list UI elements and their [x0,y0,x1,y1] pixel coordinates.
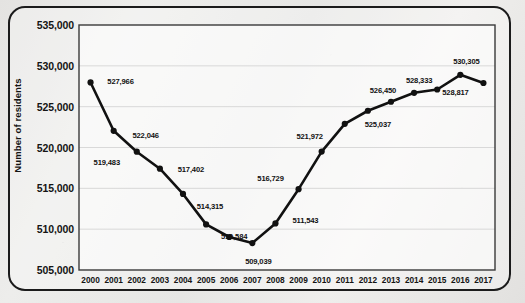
x-tick-2009: 2009 [289,275,307,285]
data-point-marker[interactable] [203,221,209,227]
x-tick-2016: 2016 [451,275,469,285]
x-tick-2006: 2006 [220,275,238,285]
x-tick-2001: 2001 [104,275,122,285]
data-label-2008: 511,543 [292,216,318,225]
x-tick-2011: 2011 [336,275,354,285]
data-label-2017: 528,817 [442,87,468,96]
data-label-2003: 517,402 [178,164,204,173]
data-point-marker[interactable] [180,191,186,197]
data-label-2001: 522,046 [132,130,158,139]
x-tick-2002: 2002 [128,275,146,285]
x-tick-2008: 2008 [266,275,284,285]
x-tick-2000: 2000 [81,275,99,285]
data-point-marker[interactable] [388,99,394,105]
x-tick-2007: 2007 [243,275,261,285]
data-point-marker[interactable] [480,80,486,86]
data-label-2009: 516,729 [257,174,283,183]
x-tick-2010: 2010 [312,275,330,285]
x-tick-2017: 2017 [474,275,492,285]
data-point-marker[interactable] [249,240,255,246]
data-point-marker[interactable] [457,72,463,78]
x-tick-2005: 2005 [197,275,215,285]
data-point-marker[interactable] [111,128,117,134]
data-point-marker[interactable] [319,148,325,154]
data-point-marker[interactable] [157,166,163,172]
x-tick-2003: 2003 [151,275,169,285]
data-point-marker[interactable] [272,220,278,226]
data-point-marker[interactable] [134,149,140,155]
x-tick-2013: 2013 [382,275,400,285]
data-label-2000: 527,966 [107,77,133,86]
data-point-marker[interactable] [434,86,440,92]
data-point-marker[interactable] [411,90,417,96]
data-label-2016: 530,305 [453,56,479,65]
data-label-2010: 521,972 [296,131,322,140]
data-point-marker[interactable] [342,121,348,127]
data-point-marker[interactable] [295,186,301,192]
data-point-marker[interactable] [365,108,371,114]
chart-page: 535,000 530,000 525,000 520,000 515,000 … [0,0,525,303]
data-label-2012: 525,037 [365,119,391,128]
data-label-2013: 526,450 [370,85,396,94]
data-label-2002: 519,483 [94,157,120,166]
x-tick-2014: 2014 [405,275,423,285]
x-tick-2015: 2015 [428,275,446,285]
x-tick-2012: 2012 [359,275,377,285]
data-label-2014: 528,333 [406,75,432,84]
data-label-2007: 509,039 [245,257,271,266]
data-label-2004: 514,315 [197,201,223,210]
x-tick-2004: 2004 [174,275,192,285]
data-point-marker[interactable] [87,79,93,85]
data-label-2005: 510,584 [221,232,247,241]
